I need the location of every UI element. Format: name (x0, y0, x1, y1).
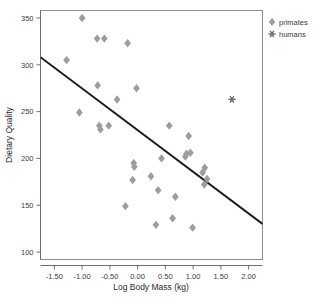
y-axis-title: Dietary Quality (4, 106, 14, 162)
series-primates (63, 14, 210, 232)
data-point-diamond (148, 172, 155, 180)
data-point-diamond (169, 214, 176, 222)
y-tick-label: 250 (21, 107, 34, 116)
x-axis: -1.50-1.00-0.500.000.501.001.502.00 (41, 266, 263, 281)
data-point-diamond (172, 193, 179, 201)
data-point-diamond (133, 84, 140, 92)
x-tick-label: 1.50 (214, 272, 229, 281)
data-points (63, 14, 235, 232)
data-point-star (228, 96, 235, 102)
x-tick-label: 1.00 (186, 272, 201, 281)
x-axis-title: Log Body Mass (kg) (113, 282, 189, 292)
data-point-diamond (166, 121, 173, 129)
plot-canvas: 100150200250300350 -1.50-1.00-0.500.000.… (0, 0, 318, 299)
data-point-diamond (94, 34, 101, 42)
data-point-diamond (63, 56, 70, 64)
data-point-diamond (153, 221, 160, 229)
data-point-diamond (124, 39, 131, 47)
y-tick-label: 200 (21, 154, 34, 163)
x-tick-label: 0.50 (158, 272, 173, 281)
data-point-diamond (94, 81, 101, 89)
legend-item-humans: humans (268, 30, 306, 39)
data-point-diamond (155, 186, 162, 194)
x-tick-label: -1.00 (74, 272, 91, 281)
data-point-diamond (129, 176, 136, 184)
x-tick-label: -1.50 (46, 272, 63, 281)
data-point-diamond (105, 121, 112, 129)
legend-label-primates: primates (279, 18, 308, 27)
y-tick-label: 150 (21, 201, 34, 210)
regression-line (41, 57, 263, 224)
legend-label-humans: humans (279, 30, 306, 39)
data-point-diamond (101, 34, 108, 42)
legend-item-primates: primates (269, 18, 308, 27)
plot-frame (41, 11, 263, 260)
legend-star-icon (268, 31, 275, 37)
x-tick-label: -0.50 (101, 272, 118, 281)
legend: primateshumans (268, 18, 308, 39)
y-tick-label: 350 (21, 14, 34, 23)
y-axis: 100150200250300350 (21, 11, 41, 260)
data-point-diamond (185, 132, 192, 140)
data-point-diamond (76, 108, 83, 116)
regression-line-path (41, 57, 263, 224)
data-point-diamond (114, 95, 121, 103)
y-tick-label: 100 (21, 248, 34, 257)
scatter-plot-figure: 100150200250300350 -1.50-1.00-0.500.000.… (0, 0, 318, 299)
series-humans (228, 96, 235, 102)
x-tick-label: 0.00 (130, 272, 145, 281)
legend-diamond-icon (269, 18, 275, 26)
y-tick-label: 300 (21, 61, 34, 70)
data-point-diamond (79, 14, 86, 22)
data-point-diamond (122, 202, 129, 210)
data-point-diamond (189, 223, 196, 231)
x-tick-label: 2.00 (241, 272, 256, 281)
data-point-diamond (158, 154, 165, 162)
